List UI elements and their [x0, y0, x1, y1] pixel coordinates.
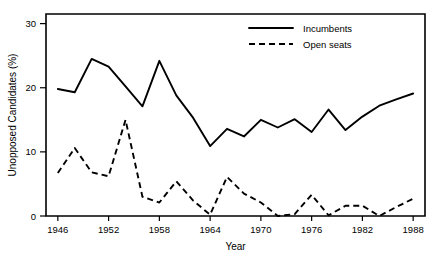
series-line-incumbents: [58, 59, 413, 146]
x-tick-label: 1988: [403, 224, 424, 235]
x-tick-label: 1946: [47, 224, 68, 235]
series-line-open-seats: [58, 120, 413, 216]
x-tick-label: 1964: [200, 224, 221, 235]
legend-label: Open seats: [303, 39, 352, 50]
y-tick-label: 0: [31, 211, 36, 222]
axis-titles: YearUnopposed Candidates (%): [7, 54, 246, 252]
x-axis-ticks: 19461952195819641970197619821988: [47, 216, 423, 235]
line-chart-svg: 19461952195819641970197619821988 0102030…: [0, 0, 437, 258]
x-tick-label: 1952: [98, 224, 119, 235]
x-axis-title: Year: [225, 241, 246, 252]
y-tick-label: 20: [25, 82, 36, 93]
y-axis-title: Unopposed Candidates (%): [7, 54, 18, 177]
y-axis-ticks: 0102030: [25, 18, 46, 221]
x-tick-label: 1982: [352, 224, 373, 235]
chart-legend: IncumbentsOpen seats: [249, 23, 352, 50]
x-tick-label: 1958: [149, 224, 170, 235]
chart-figure: 19461952195819641970197619821988 0102030…: [0, 0, 437, 258]
y-tick-label: 30: [25, 18, 36, 29]
x-tick-label: 1970: [250, 224, 271, 235]
y-tick-label: 10: [25, 146, 36, 157]
data-series-group: [58, 59, 413, 216]
x-tick-label: 1976: [301, 224, 322, 235]
legend-label: Incumbents: [303, 23, 352, 34]
